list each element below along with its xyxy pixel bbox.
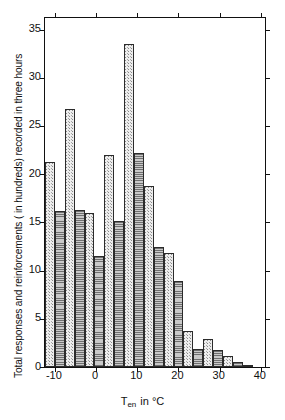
bar [134,153,144,367]
x-axis-tick-top [220,13,221,18]
y-axis-tick-label: 35 [15,23,41,34]
y-axis-tick [40,30,45,31]
y-axis-tick-label: 15 [15,216,41,227]
y-axis-tick-right [265,367,270,368]
y-axis-tick [40,222,45,223]
x-axis-title-rest: in °C [140,395,164,407]
x-axis-tick-label: 40 [254,370,266,381]
bar [223,356,233,367]
y-axis-tick [40,78,45,79]
y-axis-tick [40,367,45,368]
bar [45,162,55,367]
bar [65,109,75,367]
y-axis-tick-right [265,319,270,320]
y-axis-tick [40,126,45,127]
bar [213,350,223,367]
x-axis-tick-label: 20 [171,370,183,381]
y-axis-tick-label: 25 [15,119,41,130]
x-axis-tick-top [178,13,179,18]
chart-figure: Total responses and reinforcements ( in … [0,0,285,420]
bar [243,365,253,367]
y-axis-tick-label: 30 [15,71,41,82]
bar [94,256,104,367]
y-axis-tick-right [265,126,270,127]
y-axis-tick-right [265,78,270,79]
bar [114,221,124,367]
x-axis-tick-top [96,13,97,18]
y-axis-tick-label: 10 [15,264,41,275]
y-axis-tick [40,271,45,272]
bar-series [45,18,265,367]
bar [85,213,95,367]
bar [164,253,174,367]
x-axis-tick-top [261,13,262,18]
x-axis-title-subscript: en [127,400,136,409]
x-axis-tick-label: -10 [46,370,62,381]
bar [124,44,134,367]
bar [154,247,164,367]
bar [203,339,213,367]
x-axis-tick-labels: -10010203040 [44,370,266,386]
x-axis-tick-top [55,13,56,18]
y-axis-tick-label: 0 [15,361,41,372]
bar [183,331,193,367]
x-axis-tick-label: 30 [213,370,225,381]
y-axis-tick [40,319,45,320]
y-axis-tick-label: 20 [15,168,41,179]
y-axis-tick-label: 5 [15,312,41,323]
x-axis-tick-label: 0 [92,370,98,381]
y-axis-tick-right [265,174,270,175]
x-axis-tick-top [137,13,138,18]
bar [233,362,243,367]
y-axis-tick-right [265,271,270,272]
bar [174,281,184,367]
y-axis-tick-right [265,222,270,223]
bar [55,211,65,367]
x-axis-tick-label: 10 [130,370,142,381]
x-axis-title: Tenin °C [0,395,285,409]
bar [144,186,154,367]
y-axis-tick-labels: 05101520253035 [13,0,41,420]
bar [75,210,85,367]
bar [193,349,203,367]
bar [104,155,114,367]
plot-area [44,17,266,368]
y-axis-tick-right [265,30,270,31]
y-axis-tick [40,174,45,175]
